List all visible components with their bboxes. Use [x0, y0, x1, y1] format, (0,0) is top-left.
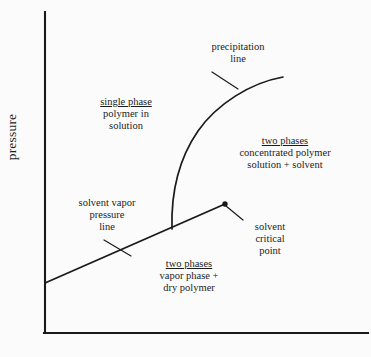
region-label-single-phase: single phase polymer in solution [60, 96, 192, 131]
region-label-two-phases-concentrated: two phases concentrated polymer solution… [205, 135, 365, 170]
annotation-precipitation-line-2: line [182, 53, 294, 65]
region-label-two-phases-vapor: two phases vapor phase + dry polymer [128, 258, 250, 293]
annotation-solvent-vapor-pressure-line-3: line [50, 221, 164, 233]
annotation-solvent-critical-point-line-3: point [230, 245, 310, 257]
region-label-two-phases-concentrated-line-2: solution + solvent [205, 159, 365, 171]
region-label-two-phases-concentrated-header: two phases [205, 135, 365, 147]
annotation-solvent-vapor-pressure-line-2: pressure [50, 209, 164, 221]
annotation-solvent-critical-point-line-1: solvent [230, 221, 310, 233]
region-label-two-phases-vapor-header: two phases [128, 258, 250, 270]
annotation-solvent-critical-point: solvent critical point [230, 221, 310, 256]
region-label-two-phases-concentrated-line-1: concentrated polymer [205, 147, 365, 159]
critical-point-leader-line [226, 206, 243, 220]
region-label-single-phase-line-2: solution [60, 120, 192, 132]
y-axis-title: pressure [4, 87, 22, 187]
region-label-two-phases-vapor-line-1: vapor phase + [128, 270, 250, 282]
annotation-solvent-vapor-pressure-line-1: solvent vapor [50, 197, 164, 209]
precipitation-leader-line [212, 72, 238, 89]
region-label-two-phases-vapor-line-2: dry polymer [128, 282, 250, 294]
region-label-single-phase-line-1: polymer in [60, 108, 192, 120]
annotation-solvent-vapor-pressure-line: solvent vapor pressure line [50, 197, 164, 232]
phase-diagram-figure: pressure single phase polymer in solutio… [0, 0, 371, 357]
region-label-single-phase-header: single phase [60, 96, 192, 108]
annotation-precipitation-line: precipitation line [182, 41, 294, 65]
annotation-precipitation-line-1: precipitation [182, 41, 294, 53]
solvent-critical-point-marker [222, 201, 227, 206]
annotation-solvent-critical-point-line-2: critical [230, 233, 310, 245]
